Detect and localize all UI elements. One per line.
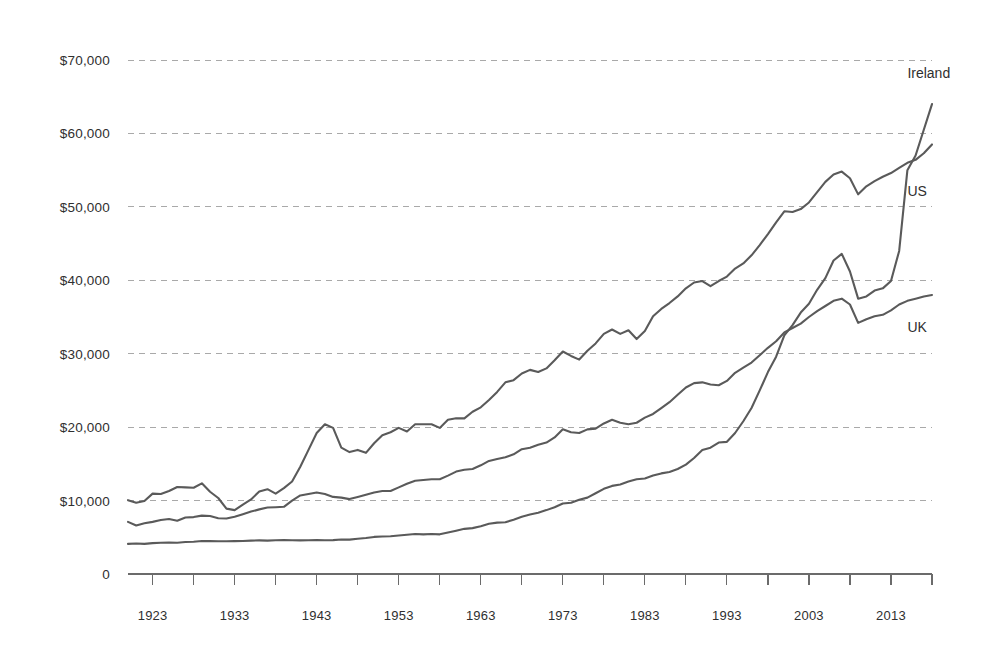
series-label-uk: UK xyxy=(907,319,927,335)
y-axis-tick-label: $60,000 xyxy=(60,126,110,141)
chart-container: 0$10,000$20,000$30,000$40,000$50,000$60,… xyxy=(0,0,996,664)
x-axis-tick-label: 2013 xyxy=(876,608,906,623)
x-axis-tick-label: 1923 xyxy=(138,608,168,623)
gridlines xyxy=(128,60,932,501)
series-label-ireland: Ireland xyxy=(907,65,950,81)
x-axis-tick-label: 1983 xyxy=(630,608,660,623)
series-line-us xyxy=(128,144,932,510)
line-chart: 0$10,000$20,000$30,000$40,000$50,000$60,… xyxy=(0,0,996,664)
data-series xyxy=(128,104,932,544)
y-axis-tick-label: $20,000 xyxy=(60,420,110,435)
y-axis-tick-label: $40,000 xyxy=(60,273,110,288)
x-axis-tick-label: 1953 xyxy=(384,608,414,623)
y-axis-tick-label: 0 xyxy=(102,567,110,582)
series-label-us: US xyxy=(907,183,926,199)
x-axis-tick-label: 1973 xyxy=(548,608,578,623)
x-axis-tick-label: 1963 xyxy=(466,608,496,623)
y-axis-tick-label: $30,000 xyxy=(60,347,110,362)
y-axis-tick-label: $50,000 xyxy=(60,200,110,215)
x-axis-labels: 1923193319431953196319731983199320032013 xyxy=(138,608,906,623)
series-labels: IrelandUSUK xyxy=(907,65,950,334)
y-axis-labels: 0$10,000$20,000$30,000$40,000$50,000$60,… xyxy=(60,53,110,582)
x-axis-tick-label: 1993 xyxy=(712,608,742,623)
x-axis-tick-label: 2003 xyxy=(794,608,824,623)
series-line-ireland xyxy=(128,104,932,544)
x-axis xyxy=(128,574,932,585)
x-axis-tick-label: 1933 xyxy=(220,608,250,623)
x-axis-tick-label: 1943 xyxy=(302,608,332,623)
y-axis-tick-label: $10,000 xyxy=(60,494,110,509)
y-axis-tick-label: $70,000 xyxy=(60,53,110,68)
series-line-uk xyxy=(128,295,932,526)
